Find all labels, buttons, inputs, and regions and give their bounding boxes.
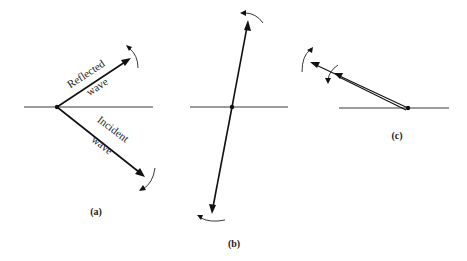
incident-label-line2: wave xyxy=(90,133,116,157)
panel-a-label: (a) xyxy=(90,206,102,218)
outer-arrowhead-icon xyxy=(310,62,320,68)
reflected-arrowhead-icon xyxy=(121,58,131,66)
panel-b-bottom-rotation-arc xyxy=(197,215,225,221)
panel-b-label: (b) xyxy=(228,238,240,250)
panel-c-outer-vector xyxy=(310,62,408,108)
panel-c-outer-rotation-arc xyxy=(302,47,313,72)
panel-c-origin-dot xyxy=(406,106,410,110)
rotation-arrowhead-icon xyxy=(325,78,331,84)
panel-b-upper-vector xyxy=(232,20,251,107)
lower-arrowhead-icon xyxy=(209,204,216,214)
panel-c: (c) xyxy=(302,47,449,142)
panel-a: Reflected wave Incident wave (a) xyxy=(24,45,155,218)
panel-a-origin-dot xyxy=(55,105,59,109)
panel-b-lower-vector xyxy=(209,107,232,214)
reflected-rotation-arc xyxy=(126,45,138,68)
upper-arrowhead-icon xyxy=(244,20,251,31)
wave-phasor-diagram: Reflected wave Incident wave (a) (b) xyxy=(0,0,467,261)
panel-b-origin-dot xyxy=(230,105,234,109)
panel-b: (b) xyxy=(190,10,288,250)
rotation-arrowhead-icon xyxy=(240,10,246,16)
rotation-arrowhead-icon xyxy=(197,215,203,220)
panel-b-top-rotation-arc xyxy=(240,10,263,23)
panel-c-label: (c) xyxy=(391,130,402,142)
